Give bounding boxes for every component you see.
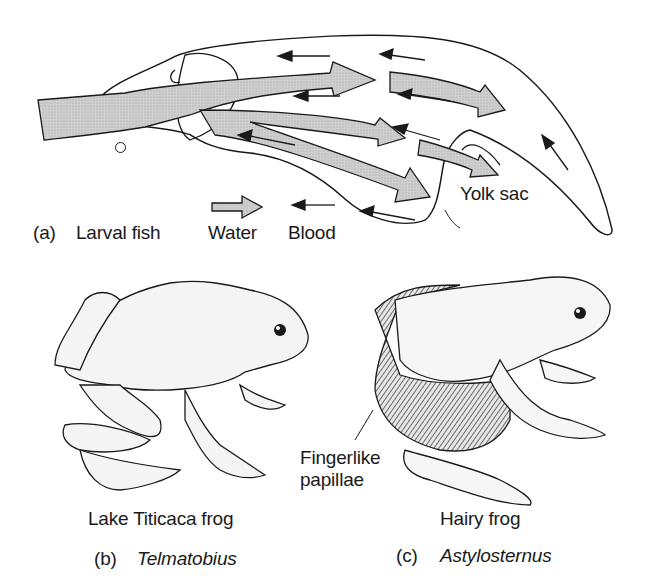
papillae-label-line1: Fingerlike xyxy=(300,447,380,469)
panel-b-common-name: Lake Titicaca frog xyxy=(88,508,233,530)
legend-water-label: Water xyxy=(208,222,257,244)
water-legend-icon xyxy=(212,196,262,218)
papillae-label-line2: papillae xyxy=(300,469,364,491)
panel-b-genus: Telmatobius xyxy=(137,548,237,570)
water-arrow-mid-right xyxy=(418,140,498,177)
fish-eye-icon xyxy=(115,142,126,153)
water-stream-branch xyxy=(200,110,430,202)
panel-a-title: Larval fish xyxy=(76,222,160,244)
panel-c-genus: Astylosternus xyxy=(440,545,551,567)
blood-legend-icon xyxy=(292,200,335,210)
papillae-pointer xyxy=(355,410,373,440)
legend-blood-label: Blood xyxy=(288,222,336,244)
panel-a-letter: (a) xyxy=(33,222,56,244)
yolk-sac-label: Yolk sac xyxy=(460,183,528,205)
panel-b-letter: (b) xyxy=(94,548,117,570)
panel-c-common-name: Hairy frog xyxy=(440,508,520,530)
yolk-sac-pointer xyxy=(445,210,460,228)
panel-c-letter: (c) xyxy=(396,545,418,567)
larval-fish-drawing xyxy=(0,0,645,250)
